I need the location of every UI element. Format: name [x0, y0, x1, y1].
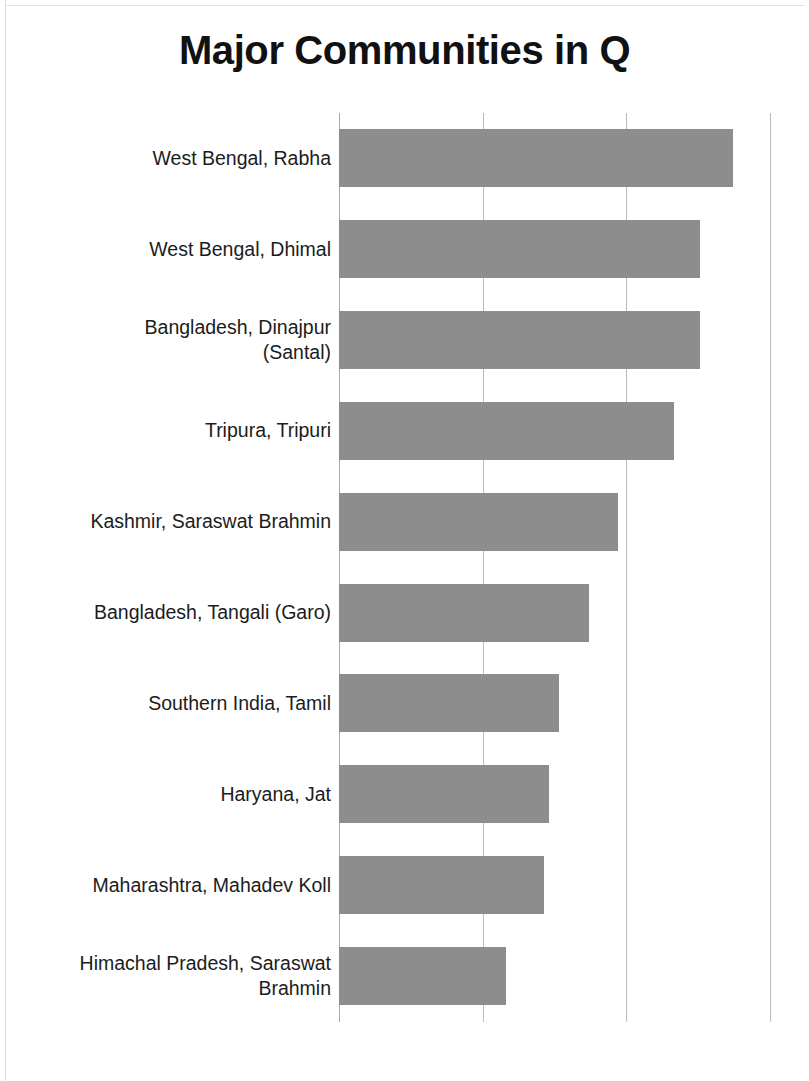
category-label-line: Maharashtra, Mahadev Koll: [93, 873, 331, 898]
category-label: Maharashtra, Mahadev Koll: [15, 840, 331, 931]
category-label-line: Bangladesh, Dinajpur: [145, 315, 331, 340]
bar: [339, 856, 544, 914]
category-label: Tripura, Tripuri: [15, 386, 331, 477]
bar-row: [339, 477, 770, 568]
bar-row: [339, 113, 770, 204]
category-label: Southern India, Tamil: [15, 658, 331, 749]
category-label-line: West Bengal, Rabha: [153, 146, 332, 171]
category-label: Kashmir, Saraswat Brahmin: [15, 477, 331, 568]
category-label-line: Kashmir, Saraswat Brahmin: [90, 509, 331, 534]
bar-row: [339, 386, 770, 477]
category-label-line: Southern India, Tamil: [148, 691, 331, 716]
category-label-line: (Santal): [145, 340, 331, 365]
bar-row: [339, 931, 770, 1022]
category-label: Bangladesh, Dinajpur(Santal): [15, 295, 331, 386]
bar: [339, 129, 733, 187]
category-label-line: Haryana, Jat: [220, 782, 331, 807]
bar: [339, 220, 700, 278]
category-label: Haryana, Jat: [15, 749, 331, 840]
category-label-line: Brahmin: [80, 976, 331, 1001]
category-label: Himachal Pradesh, SaraswatBrahmin: [15, 931, 331, 1022]
bar-row: [339, 658, 770, 749]
category-label-line: Tripura, Tripuri: [205, 418, 331, 443]
category-label: West Bengal, Dhimal: [15, 204, 331, 295]
bar: [339, 674, 559, 732]
category-label-line: West Bengal, Dhimal: [149, 237, 331, 262]
bar-row: [339, 204, 770, 295]
scanned-page: Major Communities in Q West Bengal, Rabh…: [0, 0, 809, 1081]
category-label: West Bengal, Rabha: [15, 113, 331, 204]
bar: [339, 584, 589, 642]
category-axis-labels: West Bengal, RabhaWest Bengal, DhimalBan…: [8, 113, 331, 1022]
bar: [339, 765, 549, 823]
bar: [339, 311, 700, 369]
bar-row: [339, 295, 770, 386]
bar-row: [339, 840, 770, 931]
gridline: [770, 113, 771, 1022]
bar-row: [339, 568, 770, 659]
bar: [339, 493, 618, 551]
bar: [339, 402, 674, 460]
bar: [339, 947, 506, 1005]
bar-chart: West Bengal, RabhaWest Bengal, DhimalBan…: [0, 0, 809, 1081]
category-label: Bangladesh, Tangali (Garo): [15, 568, 331, 659]
category-label-line: Bangladesh, Tangali (Garo): [94, 600, 331, 625]
category-label-line: Himachal Pradesh, Saraswat: [80, 951, 331, 976]
bar-row: [339, 749, 770, 840]
plot-area: [339, 113, 770, 1022]
